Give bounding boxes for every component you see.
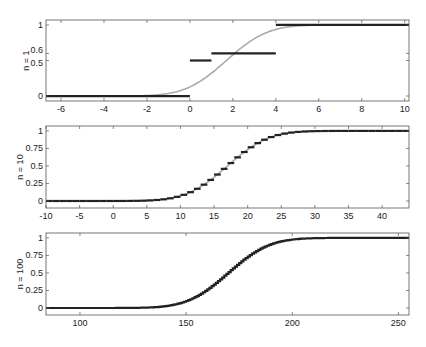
- x-tick-label: -6: [57, 104, 65, 114]
- figure: -6-4-2024681000.50.61n = 1 -10-505101520…: [0, 0, 426, 347]
- y-tick-label: 0.25: [25, 178, 43, 188]
- cdf-step-line: [46, 238, 411, 308]
- x-tick-label: 0: [111, 211, 116, 221]
- x-tick-label: -10: [39, 211, 52, 221]
- x-tick-label: 8: [359, 104, 364, 114]
- x-tick-label: 250: [391, 318, 406, 328]
- subplot-n1: -6-4-2024681000.50.61n = 1: [21, 20, 410, 114]
- subplot-n10: -10-5051015202530354000.250.50.751n = 10: [15, 126, 416, 221]
- x-tick-label: 2: [230, 104, 235, 114]
- x-tick-label: 150: [179, 318, 194, 328]
- x-tick-label: 20: [243, 211, 253, 221]
- y-axis-label: n = 1: [21, 50, 31, 70]
- x-tick-label: -2: [143, 104, 151, 114]
- y-tick-label: 0.75: [25, 250, 43, 260]
- y-axis-label: n = 10: [15, 154, 25, 179]
- x-tick-label: 200: [285, 318, 300, 328]
- y-tick-label: 0: [38, 91, 43, 101]
- y-tick-label: 0: [38, 196, 43, 206]
- x-tick-label: 4: [273, 104, 278, 114]
- y-tick-label: 0.6: [30, 45, 43, 55]
- x-tick-label: 5: [144, 211, 149, 221]
- x-tick-label: 10: [400, 104, 410, 114]
- x-tick-label: -4: [100, 104, 108, 114]
- x-tick-label: -5: [76, 211, 84, 221]
- y-tick-label: 0.75: [25, 143, 43, 153]
- plot-area: [46, 238, 411, 308]
- y-tick-label: 0.5: [30, 161, 43, 171]
- x-tick-label: 6: [316, 104, 321, 114]
- y-axis-label: n = 100: [15, 259, 25, 289]
- x-tick-label: 10: [175, 211, 185, 221]
- subplot-n100: 10015020025000.250.50.751n = 100: [15, 233, 411, 328]
- y-tick-label: 0: [38, 303, 43, 313]
- plot-area: [46, 131, 416, 201]
- y-tick-label: 0.5: [30, 268, 43, 278]
- y-tick-label: 1: [38, 126, 43, 136]
- y-tick-label: 1: [38, 233, 43, 243]
- y-tick-label: 0.25: [25, 285, 43, 295]
- x-tick-label: 30: [310, 211, 320, 221]
- x-tick-label: 35: [343, 211, 353, 221]
- x-tick-label: 0: [187, 104, 192, 114]
- x-tick-label: 25: [276, 211, 286, 221]
- x-tick-label: 100: [72, 318, 87, 328]
- y-tick-label: 0.5: [30, 58, 43, 68]
- x-tick-label: 40: [377, 211, 387, 221]
- normal-cdf-curve: [46, 25, 409, 96]
- x-tick-label: 15: [209, 211, 219, 221]
- normal-cdf-curve: [46, 131, 409, 201]
- plot-area: [46, 25, 409, 96]
- y-tick-label: 1: [38, 20, 43, 30]
